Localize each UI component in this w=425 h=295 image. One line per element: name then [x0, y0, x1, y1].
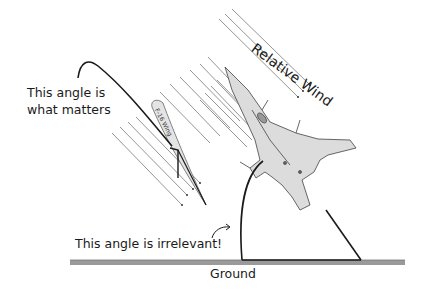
angle-matters-label: This angle is what matters	[27, 84, 111, 118]
angle-irrelevant-label: This angle is irrelevant!	[75, 236, 222, 251]
ground-label: Ground	[210, 266, 256, 281]
angle-matters-line-2: what matters	[27, 101, 111, 118]
angle-matters-line-1: This angle is	[27, 84, 111, 101]
f16-jet-sketch	[225, 67, 356, 210]
